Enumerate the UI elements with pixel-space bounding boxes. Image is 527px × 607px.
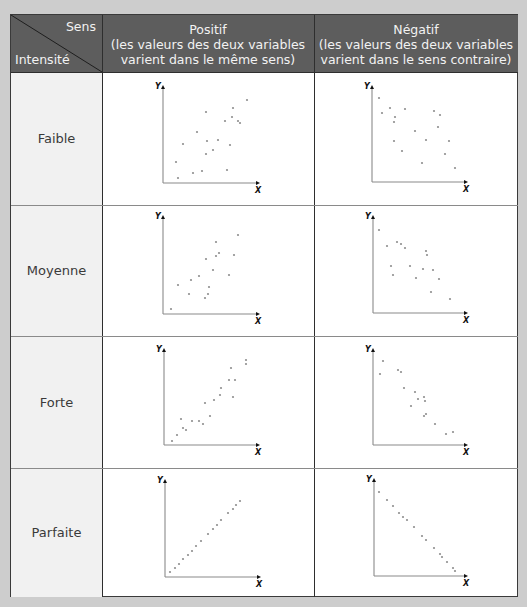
row-label-faible-text: Faible <box>38 131 76 146</box>
corner-label-sens: Sens <box>66 19 96 34</box>
row-label-moyenne: Moyenne <box>11 205 102 336</box>
column-divider-1 <box>102 15 103 597</box>
row-divider-2 <box>11 336 518 337</box>
header-negatif-desc-2: varient dans le sens contraire) <box>319 52 513 67</box>
header-positif-title: Positif <box>111 22 305 37</box>
corner-label-intensite: Intensité <box>15 52 70 67</box>
header-positif-desc-1: (les valeurs des deux variables <box>111 37 305 52</box>
header-corner-cell: Sens Intensité <box>11 15 102 72</box>
row-label-faible: Faible <box>11 72 102 205</box>
row-divider-1 <box>11 205 518 206</box>
row-label-moyenne-text: Moyenne <box>27 263 86 278</box>
row-label-parfaite-text: Parfaite <box>32 525 82 540</box>
column-divider-2 <box>314 15 315 597</box>
header-positif-desc-2: varient dans le même sens) <box>111 52 305 67</box>
row-label-forte: Forte <box>11 336 102 468</box>
row-label-parfaite: Parfaite <box>11 468 102 597</box>
header-col-negatif: Négatif (les valeurs des deux variables … <box>314 15 518 72</box>
header-negatif-title: Négatif <box>319 22 513 37</box>
row-divider-header <box>11 72 518 73</box>
correlation-table: Sens Intensité Positif (les valeurs des … <box>10 14 518 597</box>
header-col-positif: Positif (les valeurs des deux variables … <box>102 15 314 72</box>
row-label-forte-text: Forte <box>40 395 73 410</box>
header-negatif-desc-1: (les valeurs des deux variables <box>319 37 513 52</box>
row-divider-3 <box>11 468 518 469</box>
